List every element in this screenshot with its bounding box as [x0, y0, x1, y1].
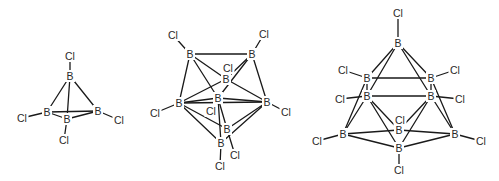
bond — [367, 43, 398, 96]
bond — [227, 102, 267, 129]
bond — [47, 111, 98, 112]
chlorine-atom-label: Cl — [59, 134, 69, 146]
boron-atom-label: B — [427, 90, 434, 102]
chlorine-atom-label: Cl — [223, 62, 233, 74]
boron-atom-label: B — [217, 137, 224, 149]
bond — [399, 134, 455, 148]
bond — [343, 134, 399, 148]
chlorine-atom-label: Cl — [150, 107, 160, 119]
chlorine-atom-label: Cl — [215, 160, 225, 172]
atoms-layer: BBBBClClClClBBBBBBBBClClClClClClClClBBBB… — [16, 7, 488, 176]
chlorine-atom-label: Cl — [206, 105, 216, 117]
boron-atom-label: B — [339, 128, 346, 140]
chlorine-atom-label: Cl — [312, 135, 322, 147]
chlorine-atom-label: Cl — [17, 112, 27, 124]
boron-atom-label: B — [214, 92, 221, 104]
molecule-diagram: BBBBClClClClBBBBBBBBClClClClClClClClBBBB… — [0, 0, 499, 181]
boron-atom-label: B — [395, 142, 402, 154]
chlorine-atom-label: Cl — [476, 135, 486, 147]
bond — [398, 43, 431, 96]
boron-atom-label: B — [223, 123, 230, 135]
chlorine-atom-label: Cl — [114, 114, 124, 126]
boron-atom-label: B — [363, 72, 370, 84]
bond — [190, 54, 226, 79]
boron-atom-label: B — [186, 48, 193, 60]
structure-3-atoms: BBBBBBBBBClClClClClClClClCl — [311, 7, 488, 176]
boron-atom-label: B — [451, 128, 458, 140]
boron-atom-label: B — [63, 113, 70, 125]
bond — [343, 78, 367, 134]
chlorine-atom-label: Cl — [455, 93, 465, 105]
bond — [431, 78, 455, 134]
bond — [179, 54, 190, 103]
boron-atom-label: B — [248, 48, 255, 60]
chlorine-atom-label: Cl — [259, 28, 269, 40]
chlorine-atom-label: Cl — [168, 29, 178, 41]
boron-atom-label: B — [94, 105, 101, 117]
boron-atom-label: B — [427, 72, 434, 84]
chlorine-atom-label: Cl — [393, 7, 403, 19]
chlorine-atom-label: Cl — [230, 149, 240, 161]
chlorine-atom-label: Cl — [395, 114, 405, 126]
boron-atom-label: B — [66, 70, 73, 82]
chlorine-atom-label: Cl — [335, 93, 345, 105]
boron-atom-label: B — [394, 37, 401, 49]
chlorine-atom-label: Cl — [394, 164, 404, 176]
chlorine-atom-label: Cl — [65, 50, 75, 62]
structure-1-bonds — [22, 56, 119, 140]
chlorine-atom-label: Cl — [450, 64, 460, 76]
bonds-layer — [22, 13, 481, 170]
boron-atom-label: B — [363, 90, 370, 102]
boron-atom-label: B — [222, 73, 229, 85]
boron-atom-label: B — [175, 97, 182, 109]
chlorine-atom-label: Cl — [338, 64, 348, 76]
chlorine-atom-label: Cl — [281, 106, 291, 118]
boron-atom-label: B — [263, 96, 270, 108]
boron-atom-label: B — [43, 106, 50, 118]
